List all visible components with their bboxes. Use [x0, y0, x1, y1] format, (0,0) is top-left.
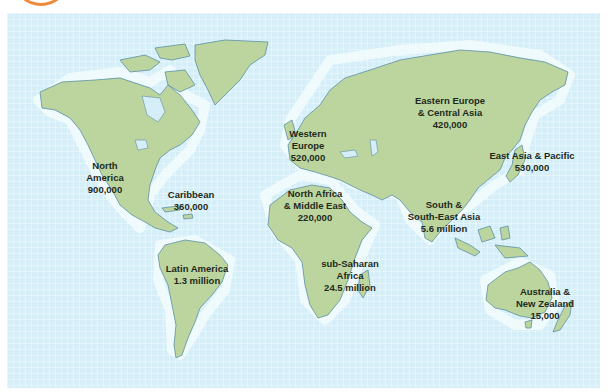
region-label-north-africa-middle-east: North Africa& Middle East220,000: [284, 188, 346, 224]
region-label-east-asia-pacific: East Asia & Pacific530,000: [489, 150, 574, 174]
region-label-sub-saharan-africa: sub-SaharanAfrica24.5 million: [321, 258, 379, 294]
world-map: NorthAmerica900,000 Caribbean360,000 Lat…: [7, 13, 600, 388]
greenland: [195, 40, 268, 105]
logo-arc: [14, 0, 68, 6]
region-label-eastern-europe-central-asia: Eastern Europe& Central Asia420,000: [415, 95, 485, 131]
region-label-caribbean: Caribbean360,000: [168, 189, 214, 213]
region-label-western-europe: WesternEurope520,000: [289, 128, 326, 164]
region-label-north-america: NorthAmerica900,000: [86, 160, 124, 196]
region-label-south-southeast-asia: South &South-East Asia5.6 million: [408, 199, 481, 235]
region-label-latin-america: Latin America1.3 million: [166, 263, 228, 287]
region-label-australia-new-zealand: Australia &New Zealand15,000: [516, 286, 574, 322]
